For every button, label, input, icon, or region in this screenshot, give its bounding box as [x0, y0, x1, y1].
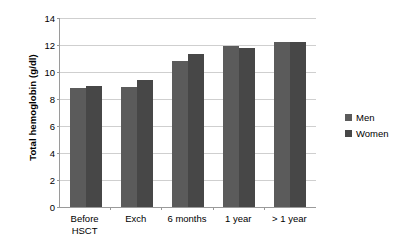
bar-men	[223, 46, 239, 207]
bar-group	[60, 18, 111, 207]
bar-men	[274, 42, 290, 207]
bar-women	[86, 86, 102, 208]
bar-groups	[60, 18, 316, 207]
bar-group	[111, 18, 162, 207]
bar-group	[162, 18, 213, 207]
x-axis-category-labels: Before HSCTExch6 months1 year> 1 year	[59, 213, 315, 249]
bar-women	[137, 80, 153, 207]
x-axis-tick-mark	[110, 207, 111, 210]
bar-women	[239, 48, 255, 207]
x-axis-tick-mark	[264, 207, 265, 210]
x-axis-category-label: 1 year	[213, 213, 264, 249]
x-axis-tick-mark	[161, 207, 162, 210]
x-axis-category-label: Before HSCT	[59, 213, 110, 249]
bar-men	[121, 87, 137, 207]
bar-women	[290, 42, 306, 207]
y-axis-tick-label: 4	[50, 148, 55, 159]
bar-women	[188, 54, 204, 207]
y-axis-tick-label: 8	[50, 94, 55, 105]
y-axis-tick-mark	[57, 207, 60, 208]
x-axis-tick-mark	[213, 207, 214, 210]
x-axis-category-label: Exch	[110, 213, 161, 249]
y-axis-tick-label: 10	[44, 67, 55, 78]
legend-item-men: Men	[345, 112, 389, 123]
bar-men	[70, 88, 86, 207]
y-axis-tick-label: 0	[50, 202, 55, 213]
x-axis-category-label: > 1 year	[264, 213, 315, 249]
legend-swatch-icon	[345, 114, 352, 121]
y-axis-tick-label: 2	[50, 175, 55, 186]
legend-label: Men	[356, 112, 374, 123]
legend-swatch-icon	[345, 130, 352, 137]
y-axis-tick-label: 14	[44, 13, 55, 24]
bar-group	[214, 18, 265, 207]
x-axis-category-label: 6 months	[161, 213, 212, 249]
plot-area: 14121086420	[59, 18, 316, 208]
legend-label: Women	[356, 128, 389, 139]
bar-men	[172, 61, 188, 207]
chart-legend: MenWomen	[345, 112, 389, 144]
bar-chart: Total hemoglobin (g/dl) 14121086420 Befo…	[0, 0, 409, 252]
y-axis-tick-label: 6	[50, 121, 55, 132]
bar-group	[265, 18, 316, 207]
y-axis-title: Total hemoglobin (g/dl)	[27, 18, 38, 198]
y-axis-tick-label: 12	[44, 40, 55, 51]
legend-item-women: Women	[345, 128, 389, 139]
